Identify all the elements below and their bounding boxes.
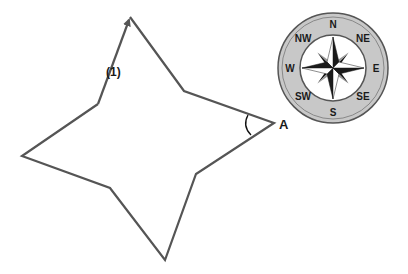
path-step-label: (1) — [106, 65, 121, 79]
compass-label-se: SE — [356, 91, 370, 102]
vertex-a-label: A — [279, 117, 289, 132]
start-arrow-segment — [98, 20, 129, 104]
compass-label-sw: SW — [295, 91, 312, 102]
compass-rose-icon: N NE E SE S SW W NW — [278, 13, 388, 123]
compass-label-ne: NE — [356, 33, 370, 44]
compass-label-w: W — [285, 63, 295, 74]
diagram-canvas: (1) A N NE E — [0, 0, 408, 274]
star-path — [22, 17, 274, 260]
compass-label-n: N — [329, 19, 336, 30]
compass-label-e: E — [373, 63, 380, 74]
star-outline — [22, 17, 274, 260]
compass-label-s: S — [330, 107, 337, 118]
compass-label-nw: NW — [295, 33, 312, 44]
angle-arc-icon — [246, 115, 251, 135]
